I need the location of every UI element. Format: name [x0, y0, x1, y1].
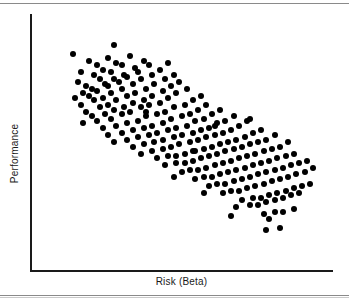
scatter-point — [272, 209, 278, 215]
scatter-point — [250, 162, 256, 168]
scatter-point — [307, 181, 313, 187]
scatter-point — [247, 202, 253, 208]
scatter-point — [78, 102, 84, 108]
scatter-point — [266, 192, 272, 198]
scatter-point — [283, 153, 289, 159]
scatter-point — [203, 134, 209, 140]
scatter-point — [285, 139, 291, 145]
scatter-point — [184, 123, 190, 129]
scatter-point — [212, 162, 218, 168]
scatter-point — [250, 130, 256, 136]
scatter-point — [277, 225, 283, 231]
scatter-point — [247, 116, 253, 122]
scatter-point — [171, 174, 177, 180]
scatter-point — [149, 123, 155, 129]
scatter-point — [220, 160, 226, 166]
scatter-point — [149, 93, 155, 99]
scatter-point — [222, 148, 228, 154]
scatter-point — [212, 132, 218, 138]
scatter-point — [274, 190, 280, 196]
scatter-point — [135, 69, 141, 75]
scatter-point — [192, 118, 198, 124]
scatter-point — [263, 227, 269, 233]
scatter-point — [261, 181, 267, 187]
scatter-point — [173, 153, 179, 159]
scatter-point — [231, 113, 237, 119]
scatter-point — [130, 144, 136, 150]
scatter-point — [179, 169, 185, 175]
scatter-point — [146, 102, 152, 108]
scatter-point — [220, 130, 226, 136]
scatter-point — [217, 171, 223, 177]
scatter-point — [130, 81, 136, 87]
scatter-point — [108, 116, 114, 122]
scatter-point — [296, 190, 302, 196]
scatter-point — [225, 169, 231, 175]
scatter-point — [80, 120, 86, 126]
scatter-point — [288, 192, 294, 198]
scatter-point — [94, 62, 100, 68]
scatter-point — [113, 97, 119, 103]
scatter-point — [141, 125, 147, 131]
scatter-point — [280, 195, 286, 201]
scatter-point — [192, 176, 198, 182]
scatter-point — [272, 197, 278, 203]
scatter-point — [182, 160, 188, 166]
scatter-point — [277, 176, 283, 182]
scatter-point — [165, 153, 171, 159]
scatter-point — [130, 100, 136, 106]
scatter-point — [220, 190, 226, 196]
scatter-point — [151, 81, 157, 87]
scatter-point — [263, 169, 269, 175]
scatter-point — [160, 137, 166, 143]
scatter-point — [198, 127, 204, 133]
scatter-point — [228, 188, 234, 194]
scatter-point — [195, 167, 201, 173]
scatter-point — [149, 148, 155, 154]
scatter-point — [190, 158, 196, 164]
top-divider-rule — [0, 3, 349, 4]
x-axis-label: Risk (Beta) — [30, 276, 333, 287]
scatter-point — [233, 204, 239, 210]
scatter-point — [146, 132, 152, 138]
scatter-point — [198, 155, 204, 161]
scatter-point — [91, 97, 97, 103]
scatter-point — [255, 202, 261, 208]
scatter-point — [299, 183, 305, 189]
scatter-point — [233, 167, 239, 173]
scatter-point — [108, 90, 114, 96]
scatter-point — [70, 51, 76, 57]
scatter-point — [296, 160, 302, 166]
scatter-point — [291, 151, 297, 157]
scatter-point — [222, 118, 228, 124]
scatter-point — [146, 62, 152, 68]
scatter-point — [124, 137, 130, 143]
scatter-point — [171, 72, 177, 78]
scatter-point — [130, 127, 136, 133]
scatter-point — [263, 199, 269, 205]
scatter-point — [171, 134, 177, 140]
scatter-point — [72, 95, 78, 101]
scatter-point — [214, 151, 220, 157]
scatter-point — [124, 74, 130, 80]
scatter-point — [108, 69, 114, 75]
scatter-point — [190, 97, 196, 103]
bottom-divider-rule-secondary — [0, 297, 349, 298]
scatter-point — [143, 86, 149, 92]
scatter-point — [138, 151, 144, 157]
scatter-point — [179, 132, 185, 138]
scatter-point — [258, 127, 264, 133]
scatter-point — [162, 76, 168, 82]
scatter-point — [187, 111, 193, 117]
scatter-point — [228, 127, 234, 133]
scatter-point — [179, 113, 185, 119]
scatter-point — [285, 174, 291, 180]
scatter-point — [209, 174, 215, 180]
scatter-point — [119, 62, 125, 68]
scatter-point — [184, 86, 190, 92]
scatter-point — [258, 160, 264, 166]
scatter-point — [127, 109, 133, 115]
scatter-point — [274, 155, 280, 161]
scatter-point — [190, 130, 196, 136]
scatter-point — [111, 139, 117, 145]
